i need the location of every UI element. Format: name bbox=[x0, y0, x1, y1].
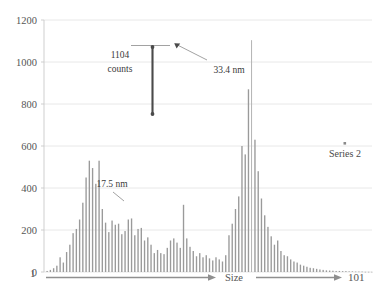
histogram-bar bbox=[319, 269, 320, 272]
histogram-bar bbox=[118, 224, 119, 272]
histogram-bar bbox=[316, 269, 317, 272]
histogram-bar bbox=[147, 237, 148, 272]
histogram-bar bbox=[238, 196, 239, 272]
histogram-bar bbox=[124, 231, 125, 272]
histogram-bar bbox=[154, 253, 155, 272]
histogram-bar bbox=[254, 140, 255, 272]
y-axis-tick-label: 200 bbox=[21, 225, 37, 236]
histogram-bar bbox=[232, 224, 233, 272]
histogram-bar bbox=[365, 272, 366, 273]
histogram-bar bbox=[335, 271, 336, 272]
shoulder-leader-line bbox=[113, 192, 124, 201]
histogram-bar bbox=[53, 268, 54, 272]
histogram-bar bbox=[89, 161, 90, 272]
histogram-bar bbox=[176, 243, 177, 272]
histogram-bar bbox=[76, 229, 77, 272]
histogram-bar bbox=[248, 89, 249, 272]
histogram-bar bbox=[144, 241, 145, 273]
histogram-bar bbox=[326, 270, 327, 272]
y-axis-tick-label: 600 bbox=[21, 141, 37, 152]
legend-label-series-2: Series 2 bbox=[329, 148, 361, 159]
histogram-bar bbox=[261, 199, 262, 273]
histogram-bar bbox=[85, 178, 86, 273]
histogram-bar bbox=[69, 245, 70, 272]
peak-arrow-shaft bbox=[176, 44, 208, 60]
histogram-bar bbox=[157, 250, 158, 272]
histogram-bar bbox=[137, 229, 138, 272]
histogram-bar bbox=[345, 271, 346, 272]
counts-annotation-value: 1104 bbox=[111, 50, 130, 60]
histogram-bar bbox=[371, 272, 372, 273]
histogram-bar bbox=[72, 233, 73, 272]
histogram-bar bbox=[180, 248, 181, 272]
histogram-bar bbox=[215, 257, 216, 272]
histogram-bar bbox=[79, 220, 80, 273]
histogram-bar bbox=[199, 253, 200, 272]
histogram-bar bbox=[193, 251, 194, 272]
histogram-bar bbox=[108, 232, 109, 272]
chart-svg: 020040060080010001200 1104 counts 33.4 n… bbox=[0, 0, 381, 297]
peak-annotation: 33.4 nm bbox=[174, 43, 245, 75]
histogram-bar bbox=[332, 271, 333, 272]
histogram-bar bbox=[342, 271, 343, 272]
legend[interactable]: Series 2 bbox=[329, 142, 361, 159]
x-axis-arrow-left-head bbox=[208, 274, 216, 280]
histogram-bar bbox=[329, 271, 330, 272]
histogram-bar bbox=[189, 247, 190, 272]
histogram-bar bbox=[222, 262, 223, 273]
histogram-bar bbox=[121, 234, 122, 272]
histogram-bar bbox=[102, 209, 103, 272]
histogram-bar bbox=[163, 254, 164, 272]
histogram-bar bbox=[219, 259, 220, 272]
counts-annotation: 1104 counts bbox=[108, 45, 170, 116]
histogram-bars bbox=[46, 40, 372, 272]
y-axis-tick-label: 400 bbox=[21, 183, 37, 194]
legend-square-marker bbox=[344, 142, 347, 145]
counts-annotation-unit: counts bbox=[108, 64, 133, 74]
histogram-bar bbox=[196, 256, 197, 272]
y-axis-tick-labels: 020040060080010001200 bbox=[16, 15, 44, 278]
histogram-bar bbox=[206, 255, 207, 272]
counts-arrow-top-cap bbox=[151, 45, 155, 49]
histogram-bar bbox=[212, 260, 213, 272]
histogram-bar bbox=[173, 238, 174, 272]
histogram-bar bbox=[300, 265, 301, 272]
histogram-bar bbox=[306, 267, 307, 272]
histogram-bar bbox=[251, 40, 252, 272]
histogram-bar bbox=[293, 262, 294, 273]
shoulder-annotation-label: 17.5 nm bbox=[96, 179, 128, 189]
y-axis-tick-label: 1000 bbox=[16, 57, 37, 68]
histogram-bar bbox=[280, 251, 281, 272]
histogram-bar bbox=[322, 270, 323, 272]
histogram-bar bbox=[111, 221, 112, 272]
histogram-bar bbox=[167, 248, 168, 272]
histogram-bar bbox=[92, 168, 93, 272]
histogram-bar bbox=[128, 220, 129, 273]
histogram-chart: 020040060080010001200 1104 counts 33.4 n… bbox=[0, 0, 381, 297]
histogram-bar bbox=[202, 257, 203, 272]
histogram-bar bbox=[235, 209, 236, 272]
histogram-bar bbox=[150, 245, 151, 272]
histogram-bar bbox=[287, 256, 288, 272]
counts-arrow-bottom-cap bbox=[151, 112, 155, 116]
histogram-bar bbox=[50, 270, 51, 272]
histogram-bar bbox=[66, 252, 67, 272]
histogram-bar bbox=[313, 268, 314, 272]
histogram-bar bbox=[368, 272, 369, 273]
histogram-bar bbox=[134, 235, 135, 272]
histogram-bar bbox=[225, 255, 226, 272]
histogram-bar bbox=[170, 241, 171, 273]
x-axis-arrow-right-head bbox=[334, 274, 342, 280]
histogram-bar bbox=[105, 223, 106, 272]
histogram-bar bbox=[241, 146, 242, 272]
histogram-bar bbox=[258, 171, 259, 272]
peak-annotation-label: 33.4 nm bbox=[213, 65, 245, 75]
histogram-bar bbox=[56, 266, 57, 272]
histogram-bar bbox=[297, 263, 298, 272]
x-axis-title: Size bbox=[225, 272, 243, 283]
shoulder-annotation: 17.5 nm bbox=[96, 179, 128, 201]
histogram-bar bbox=[131, 218, 132, 272]
histogram-bar bbox=[303, 266, 304, 272]
histogram-bar bbox=[115, 225, 116, 272]
histogram-bar bbox=[284, 255, 285, 272]
